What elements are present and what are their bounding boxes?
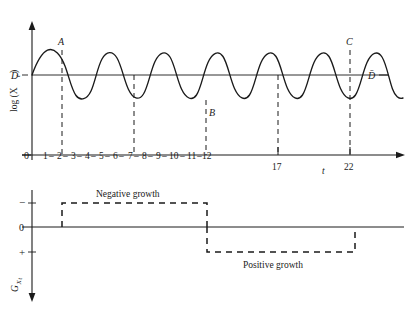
growth-axis-label-sub2: t	[17, 278, 23, 280]
point-label-b: B	[209, 107, 215, 118]
negative-growth-label: Negative growth	[96, 189, 160, 199]
x-tick-label-17: 17	[272, 162, 282, 172]
x-tick-sep-10: –	[179, 151, 185, 161]
x-tick-label-4: 4	[85, 151, 90, 161]
point-label-c: C	[346, 36, 353, 47]
x-tick-sep-7: –	[133, 151, 139, 161]
positive-growth-step	[207, 227, 355, 252]
x-tick-sep-6: –	[118, 151, 124, 161]
x-axis-arrowhead	[396, 152, 405, 159]
growth-axis-label-negative: −	[19, 196, 25, 208]
d-bar-left-group: D̄	[10, 70, 19, 81]
x-tick-label-5: 5	[99, 151, 104, 161]
figure-svg: log (X t ) D̄ D̄ A B C 0 1 – 2 – 3 – 4 –…	[0, 0, 411, 309]
y-axis-label-main: log (X	[9, 87, 20, 112]
x-tick-label-12: 12	[202, 151, 212, 161]
positive-growth-label: Positive growth	[243, 260, 303, 270]
negative-growth-step	[62, 203, 207, 227]
growth-axis-label-positive: +	[19, 246, 25, 258]
x-tick-label-3: 3	[71, 151, 76, 161]
x-tick-sep-4: –	[90, 151, 96, 161]
d-bar-left-label: D̄	[10, 70, 19, 81]
figure-container: log (X t ) D̄ D̄ A B C 0 1 – 2 – 3 – 4 –…	[0, 0, 411, 309]
growth-y-axis-arrowhead	[29, 293, 36, 302]
x-tick-label-9: 9	[156, 151, 161, 161]
x-tick-sep-2: –	[62, 151, 68, 161]
x-tick-sep-8: –	[147, 151, 153, 161]
y-axis-arrowhead	[29, 21, 36, 30]
d-bar-right-label: D̄	[367, 70, 376, 81]
x-axis-origin-label: 0	[24, 150, 29, 161]
x-tick-sep-1: –	[48, 151, 54, 161]
point-label-a: A	[57, 36, 65, 47]
x-tick-label-1: 1	[43, 151, 48, 161]
y-axis-group	[29, 21, 36, 160]
x-axis-name-label: t	[322, 166, 325, 176]
growth-axis-label-zero: 0	[19, 222, 24, 233]
x-tick-label-10: 10	[169, 151, 179, 161]
x-tick-label-7: 7	[128, 151, 133, 161]
x-tick-label-6: 6	[113, 151, 118, 161]
log-level-curve	[32, 49, 403, 98]
x-tick-label-2: 2	[57, 151, 62, 161]
x-tick-label-8: 8	[142, 151, 147, 161]
d-bar-right-group: D̄	[367, 70, 376, 81]
growth-y-axis-label-group: G X t	[10, 278, 23, 293]
x-tick-label-22: 22	[344, 162, 354, 172]
x-tick-sep-9: –	[161, 151, 167, 161]
x-tick-label-11: 11	[187, 151, 196, 161]
growth-axis-label-main: G	[10, 285, 20, 292]
x-tick-sep-5: –	[104, 151, 110, 161]
growth-y-axis-group	[29, 190, 36, 302]
x-tick-sep-3: –	[76, 151, 82, 161]
